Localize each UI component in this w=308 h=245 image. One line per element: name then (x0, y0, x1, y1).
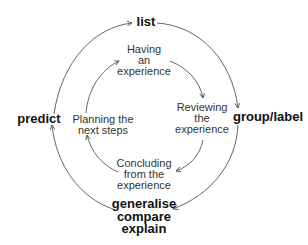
arrow-generalise-to-predict (52, 125, 113, 209)
node-group-label: group/label (228, 110, 308, 123)
experiential-learning-cycle-diagram: list group/label generalise compare expl… (0, 0, 308, 245)
node-predict: predict (14, 112, 64, 125)
node-generalise-compare-explain: generalise compare explain (104, 198, 184, 236)
node-concluding-from-the-experience: Concluding from the experience (112, 158, 176, 191)
arrow-group-to-generalise (173, 125, 238, 209)
node-having-an-experience: Having an experience (112, 44, 176, 77)
node-list: list (134, 15, 158, 28)
node-reviewing-the-experience: Reviewing the experience (170, 102, 234, 135)
node-planning-the-next-steps: Planning the next steps (68, 114, 138, 136)
arrow-reviewing-to-concluding (176, 140, 203, 171)
